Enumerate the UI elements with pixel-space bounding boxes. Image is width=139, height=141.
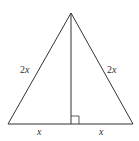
label-left-side: 2x: [20, 64, 30, 75]
label-right-side: 2x: [107, 64, 117, 75]
triangle-diagram: 2x 2x x x: [0, 0, 139, 141]
left-side: [8, 13, 71, 124]
right-angle-marker: [71, 116, 79, 124]
label-base-left: x: [36, 126, 42, 137]
label-base-right: x: [98, 126, 104, 137]
right-side: [71, 13, 133, 124]
